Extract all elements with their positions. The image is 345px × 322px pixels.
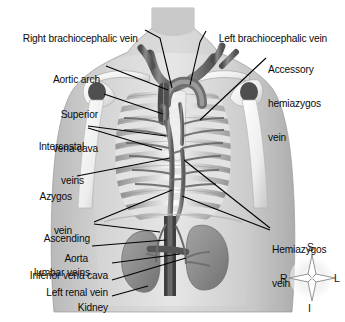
compass-label-superior: S xyxy=(307,241,314,253)
label-text: Aortic arch xyxy=(53,74,100,85)
compass-label-left: L xyxy=(334,272,340,284)
leader-aortic-arch xyxy=(106,66,168,90)
label-line-2: hemiazygos xyxy=(268,98,344,109)
leader-superior-vena-cava xyxy=(104,94,163,114)
leader-inferior-vena-cava xyxy=(112,254,180,263)
leader-ascending-lumbar-lower xyxy=(94,224,160,232)
label-right-brachiocephalic-vein: Right brachiocephalic vein xyxy=(12,22,152,56)
leader-accessory-hemiazygos-vein xyxy=(200,58,266,120)
label-line-3: vein xyxy=(268,132,344,143)
label-kidney: Kidney xyxy=(0,291,108,322)
label-accessory-hemiazygos-vein: Accessory hemiazygos vein xyxy=(268,41,344,166)
label-line-1: Accessory xyxy=(268,64,344,75)
leader-hemiazygos-upper xyxy=(184,160,270,228)
label-text: Kidney xyxy=(78,302,108,313)
label-line-1: Intercostal xyxy=(0,141,84,152)
leader-intercostal-veins-lower xyxy=(88,128,162,150)
label-line-1: Azygos xyxy=(0,191,72,202)
anatomy-figure: Right brachiocephalic vein Left brachioc… xyxy=(0,0,345,322)
compass-rose-icon xyxy=(286,252,338,304)
leader-left-brachiocephalic-vein xyxy=(190,31,206,85)
leader-aorta xyxy=(92,240,166,246)
leader-kidney xyxy=(112,286,148,296)
leader-ascending-lumbar-upper xyxy=(94,190,172,222)
compass-label-inferior: I xyxy=(308,302,311,314)
leader-hemiazygos-lower xyxy=(182,196,270,230)
compass-label-right: R xyxy=(280,272,288,284)
label-text: Right brachiocephalic vein xyxy=(23,33,138,44)
